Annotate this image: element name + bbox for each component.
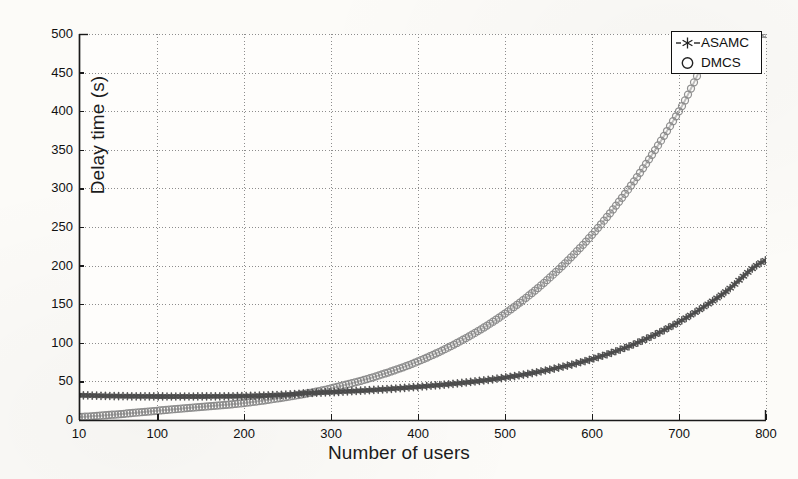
y-tick-label: 300 (25, 180, 73, 195)
legend-item-dmcs[interactable]: DMCS (672, 53, 763, 73)
y-tick-label: 200 (25, 258, 73, 273)
y-tick-label: 400 (25, 103, 73, 118)
legend-label-asamc: ASAMC (701, 36, 749, 50)
legend[interactable]: ASAMC DMCS (671, 31, 762, 74)
x-tick-label: 10 (54, 426, 104, 441)
y-tick-label: 450 (25, 65, 73, 80)
y-tick-label: 100 (25, 335, 73, 350)
x-tick-label: 100 (132, 426, 182, 441)
x-tick-label: 200 (219, 426, 269, 441)
star-marker-icon (675, 34, 701, 52)
x-tick-label: 400 (393, 426, 443, 441)
legend-item-asamc[interactable]: ASAMC (672, 33, 763, 53)
x-tick-label: 700 (654, 426, 704, 441)
y-tick-label: 150 (25, 296, 73, 311)
y-tick-label: 0 (25, 412, 73, 427)
legend-label-dmcs: DMCS (701, 56, 741, 70)
x-tick-label: 800 (741, 426, 791, 441)
x-tick-label: 500 (480, 426, 530, 441)
circle-marker-icon (675, 54, 701, 72)
y-tick-label: 50 (25, 373, 73, 388)
x-tick-label: 300 (306, 426, 356, 441)
x-tick-label: 600 (567, 426, 617, 441)
y-tick-label: 250 (25, 219, 73, 234)
figure-canvas: 050100150200250300350400450500 101002003… (0, 0, 798, 479)
y-tick-label: 500 (25, 26, 73, 41)
y-tick-label: 350 (25, 142, 73, 157)
